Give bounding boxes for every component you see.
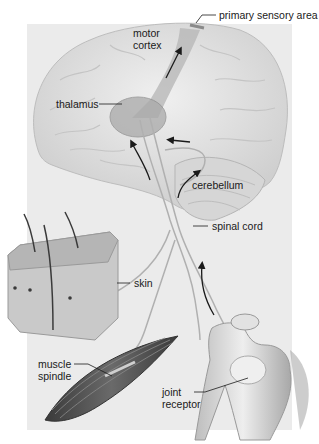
label-skin: skin [134, 277, 153, 289]
label-joint-receptor-line1: joint [162, 386, 201, 398]
label-muscle-spindle: muscle spindle [38, 358, 71, 382]
label-joint-receptor: joint receptor [162, 386, 201, 410]
label-primary-sensory-area: primary sensory area [219, 9, 318, 21]
label-cerebellum: cerebellum [192, 179, 243, 191]
label-motor-cortex-line1: motor [133, 27, 162, 39]
label-joint-receptor-line2: receptor [162, 398, 201, 410]
label-spinal-cord: spinal cord [212, 220, 263, 232]
label-muscle-spindle-line2: spindle [38, 370, 71, 382]
label-motor-cortex-line2: cortex [133, 39, 162, 51]
label-motor-cortex: motor cortex [133, 27, 162, 51]
shoulder-joint [195, 314, 309, 440]
label-thalamus: thalamus [56, 98, 99, 110]
skin-block [8, 212, 118, 340]
label-muscle-spindle-line1: muscle [38, 358, 71, 370]
thalamus [110, 97, 166, 137]
